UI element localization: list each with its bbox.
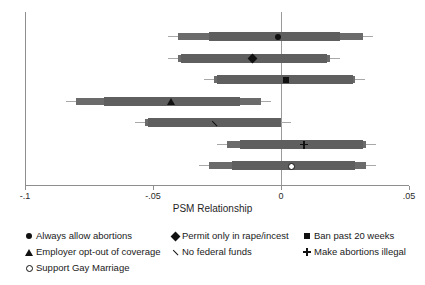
x-tick — [25, 186, 26, 190]
plus-marker-icon — [300, 245, 314, 259]
open-circle-marker-icon — [284, 159, 298, 173]
legend-item-label: No federal funds — [182, 244, 252, 260]
ci-row — [0, 30, 425, 44]
ci-row — [0, 52, 425, 66]
filled-circle-marker-icon — [271, 30, 285, 44]
legend-item-label: Always allow abortions — [36, 228, 132, 244]
coefficient-plot-figure: -.1-.050.05 PSM Relationship Always allo… — [0, 0, 425, 285]
ci-row — [0, 138, 425, 152]
ci-row — [0, 73, 425, 87]
legend-column-3: Ban past 20 weeksMake abortions illegal — [300, 228, 425, 260]
plus-marker-icon — [297, 138, 311, 152]
legend-column-1: Always allow abortionsEmployer opt-out o… — [22, 228, 182, 276]
legend-item: Make abortions illegal — [300, 244, 425, 260]
legend-item: Permit only in rape/incest — [168, 228, 300, 244]
ci-row — [0, 95, 425, 109]
legend-item-label: Employer opt-out of coverage — [36, 244, 161, 260]
filled-triangle-marker-icon — [22, 245, 36, 259]
legend: Always allow abortionsEmployer opt-out o… — [0, 228, 425, 285]
legend-item: Employer opt-out of coverage — [22, 244, 182, 260]
legend-item: Ban past 20 weeks — [300, 228, 425, 244]
x-tick — [153, 186, 154, 190]
legend-item: No federal funds — [168, 244, 300, 260]
cross-marker-icon — [207, 116, 221, 130]
legend-item-label: Permit only in rape/incest — [182, 228, 289, 244]
legend-item-label: Ban past 20 weeks — [314, 228, 394, 244]
ci-row — [0, 159, 425, 173]
filled-square-marker-icon — [279, 73, 293, 87]
x-tick — [409, 186, 410, 190]
filled-diamond-marker-icon — [246, 52, 260, 66]
legend-item: Support Gay Marriage — [22, 260, 182, 276]
x-axis-spine — [25, 185, 409, 186]
legend-item-label: Make abortions illegal — [314, 244, 406, 260]
cross-marker-icon — [168, 245, 182, 259]
legend-column-2: Permit only in rape/incestNo federal fun… — [168, 228, 300, 260]
open-circle-marker-icon — [22, 261, 36, 275]
legend-item-label: Support Gay Marriage — [36, 260, 129, 276]
x-tick-label: .05 — [387, 191, 425, 202]
x-tick-label: 0 — [259, 191, 303, 202]
x-axis-label: PSM Relationship — [0, 203, 425, 214]
legend-item: Always allow abortions — [22, 228, 182, 244]
x-tick-label: -.1 — [3, 191, 47, 202]
filled-diamond-marker-icon — [168, 229, 182, 243]
ci-row — [0, 116, 425, 130]
x-tick-label: -.05 — [131, 191, 175, 202]
filled-square-marker-icon — [300, 229, 314, 243]
x-tick — [281, 186, 282, 190]
filled-circle-marker-icon — [22, 229, 36, 243]
filled-triangle-marker-icon — [164, 95, 178, 109]
